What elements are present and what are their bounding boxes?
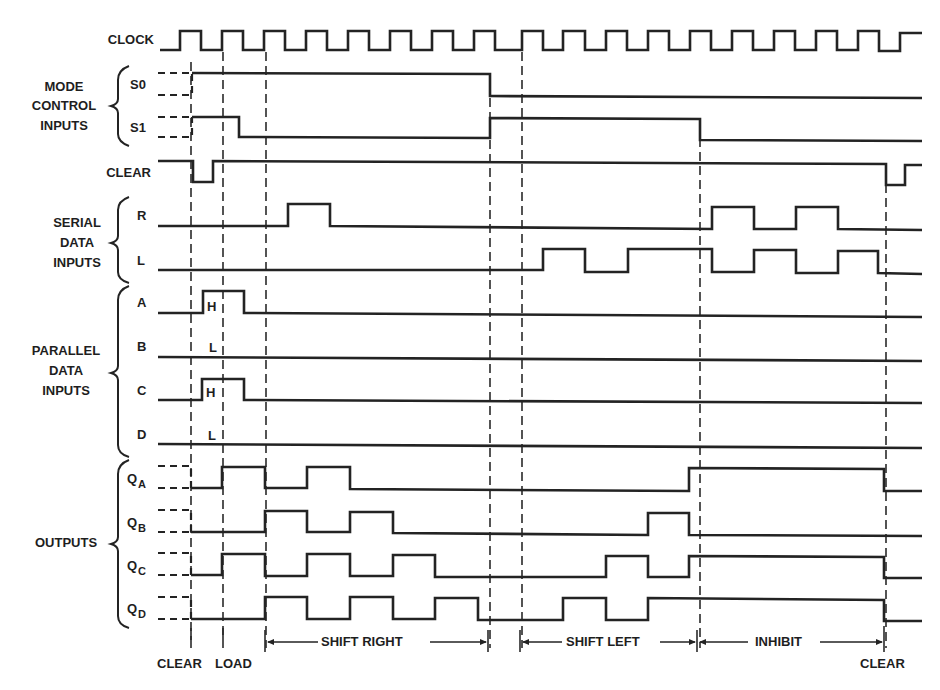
level-mark-d: L — [208, 428, 216, 443]
signal-label-s1: S1 — [130, 120, 146, 135]
phase-label-clear-start: CLEAR — [157, 656, 202, 671]
level-mark-b: L — [209, 340, 217, 355]
waveform-s1 — [192, 117, 922, 141]
group-label: INPUTS — [40, 118, 88, 133]
group-parallel-data: PARALLEL DATA INPUTS — [32, 286, 129, 457]
group-label: PARALLEL — [32, 343, 100, 358]
phase-label-shift-left: SHIFT LEFT — [566, 634, 640, 649]
waveform-parallel-d — [158, 444, 922, 448]
group-label: MODE — [45, 79, 84, 94]
arrowhead-right-icon — [689, 639, 696, 645]
qa-subscript: A — [138, 478, 146, 490]
group-serial-data: SERIAL DATA INPUTS — [53, 197, 129, 283]
brace-icon — [111, 286, 129, 457]
waveform-s0-undefined-low — [158, 73, 192, 95]
signal-label-r: R — [137, 208, 147, 223]
waveform-serial-r — [158, 204, 922, 230]
level-mark-a: H — [207, 299, 216, 314]
waveform-serial-l — [158, 249, 922, 274]
waveform-qa-undefined-high — [158, 466, 191, 488]
phase-label-load: LOAD — [215, 656, 252, 671]
group-label: INPUTS — [53, 255, 101, 270]
arrowhead-left-icon — [522, 639, 529, 645]
waveform-qb — [191, 511, 922, 536]
brace-icon — [111, 66, 129, 146]
qc-main: Q — [127, 558, 137, 573]
timing-diagram: CLOCK S0 S1 CLEAR R L A B C D Q A Q B Q … — [0, 0, 940, 690]
group-mode-control: MODE CONTROL INPUTS — [32, 66, 129, 146]
brace-icon — [111, 197, 129, 283]
arrowhead-right-icon — [876, 639, 883, 645]
phase-label-inhibit: INHIBIT — [755, 634, 802, 649]
qc-subscript: C — [138, 565, 146, 577]
waveform-parallel-b — [158, 357, 922, 361]
signal-label-clear: CLEAR — [106, 165, 151, 180]
waveform-parallel-c — [158, 379, 922, 403]
phase-label-clear-end: CLEAR — [860, 656, 905, 671]
group-label: CONTROL — [32, 98, 96, 113]
waveform-s1-undefined-low — [158, 117, 192, 137]
arrowhead-left-icon — [267, 639, 274, 645]
waveform-qd — [191, 597, 922, 621]
waveform-clock — [160, 31, 922, 51]
waveform-qa — [191, 467, 922, 491]
waveform-qc-undefined-high — [158, 553, 191, 575]
signal-label-c: C — [137, 383, 147, 398]
signal-label-b: B — [137, 339, 146, 354]
waveform-qb-undefined-high — [158, 510, 191, 532]
signal-label-qd: Q D — [127, 601, 146, 620]
phase-annotations: CLEAR LOAD SHIFT RIGHT SHIFT LEFT INHIBI… — [157, 626, 905, 671]
group-label: OUTPUTS — [35, 535, 97, 550]
group-label: INPUTS — [42, 383, 90, 398]
waveform-s0 — [192, 73, 922, 98]
group-label: DATA — [49, 363, 84, 378]
qa-main: Q — [127, 471, 137, 486]
waveform-clear — [158, 161, 922, 185]
waveform-qc — [191, 554, 922, 578]
group-label: SERIAL — [53, 215, 101, 230]
qb-subscript: B — [138, 522, 146, 534]
level-mark-c: H — [206, 385, 215, 400]
signal-label-qc: Q C — [127, 558, 146, 577]
signal-label-d: D — [137, 427, 146, 442]
qb-main: Q — [127, 515, 137, 530]
waveform-parallel-a — [158, 291, 922, 317]
signal-label-clock: CLOCK — [108, 32, 155, 47]
phase-label-shift-right: SHIFT RIGHT — [321, 634, 403, 649]
group-label: DATA — [60, 235, 95, 250]
qd-subscript: D — [138, 608, 146, 620]
arrowhead-right-icon — [480, 639, 487, 645]
signal-label-a: A — [137, 295, 147, 310]
waveform-qd-undefined-high — [158, 597, 191, 619]
signal-label-qa: Q A — [127, 471, 146, 490]
signal-label-s0: S0 — [130, 77, 146, 92]
signal-label-qb: Q B — [127, 515, 146, 534]
group-outputs: OUTPUTS — [35, 460, 129, 628]
signal-label-l: L — [137, 253, 145, 268]
qd-main: Q — [127, 601, 137, 616]
